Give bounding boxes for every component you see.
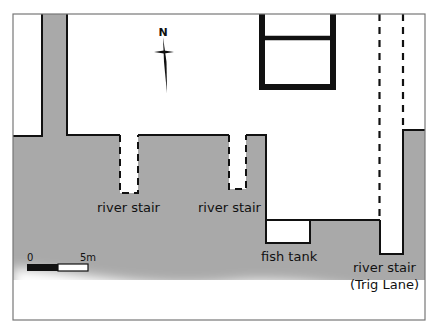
land-area-east <box>266 135 380 220</box>
river-stair-1-structure <box>120 135 138 193</box>
label-river-stair-1: river stair <box>97 200 161 215</box>
label-trig-lane: (Trig Lane) <box>350 277 419 292</box>
river-stair-2-structure <box>229 135 246 189</box>
label-river-stair-trig: river stair <box>353 260 417 275</box>
label-river-stair-2: river stair <box>198 200 262 215</box>
site-plan-map: N 0 5m river stair river stair fish tank… <box>0 0 436 332</box>
label-fish-tank: fish tank <box>261 249 318 264</box>
north-arrow-icon: N <box>154 26 174 93</box>
north-label: N <box>159 26 168 39</box>
scale-end-label: 5m <box>80 252 96 263</box>
trig-lane-stair-structure <box>380 130 403 254</box>
scale-start-label: 0 <box>27 252 33 263</box>
fish-tank-structure <box>266 220 310 243</box>
building-structure <box>262 14 333 87</box>
